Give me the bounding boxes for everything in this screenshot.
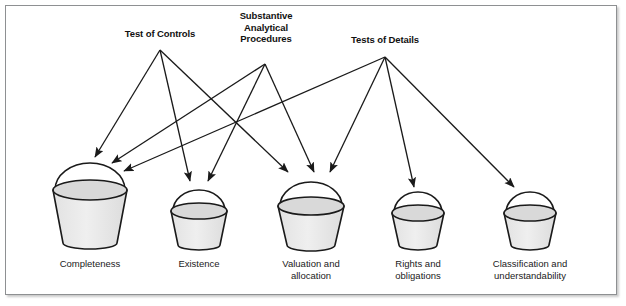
diagram-figure: Test of ControlsSubstantive Analytical P… xyxy=(0,0,626,306)
bucket-contents-surface xyxy=(278,197,344,215)
arrow-tod-to-completeness xyxy=(124,57,385,171)
arrow-toc-to-completeness xyxy=(95,50,160,157)
source-label-test-of-controls: Test of Controls xyxy=(125,28,196,40)
source-label-tests-of-details: Tests of Details xyxy=(351,34,419,46)
bucket-completeness[interactable] xyxy=(53,163,127,249)
bucket-classification-and-understandability[interactable] xyxy=(504,192,556,250)
buckets-layer xyxy=(53,163,556,251)
bucket-label-existence: Existence xyxy=(178,258,219,270)
bucket-label-completeness: Completeness xyxy=(60,258,121,270)
arrow-tod-to-valuation xyxy=(330,57,385,172)
bucket-valuation-and-allocation[interactable] xyxy=(278,182,344,251)
arrow-sap-to-valuation xyxy=(265,64,314,172)
arrows-layer xyxy=(95,50,514,187)
arrow-tod-to-classification xyxy=(385,57,514,187)
bucket-label-rights-and-obligations: Rights and obligations xyxy=(395,258,440,282)
bucket-label-classification-and-understandability: Classification and understandability xyxy=(493,258,567,282)
bucket-contents-surface xyxy=(171,203,227,219)
bucket-contents-surface xyxy=(392,205,444,221)
bucket-rights-and-obligations[interactable] xyxy=(392,192,444,250)
bucket-label-valuation-and-allocation: Valuation and allocation xyxy=(282,258,339,282)
bucket-contents-surface xyxy=(53,180,127,200)
arrow-tod-to-rights xyxy=(385,57,414,187)
arrow-toc-to-valuation xyxy=(160,50,288,172)
source-label-substantive-analytical-procedures: Substantive Analytical Procedures xyxy=(240,10,293,45)
bucket-existence[interactable] xyxy=(171,190,227,250)
bucket-contents-surface xyxy=(504,205,556,221)
arrow-sap-to-completeness xyxy=(112,64,265,163)
